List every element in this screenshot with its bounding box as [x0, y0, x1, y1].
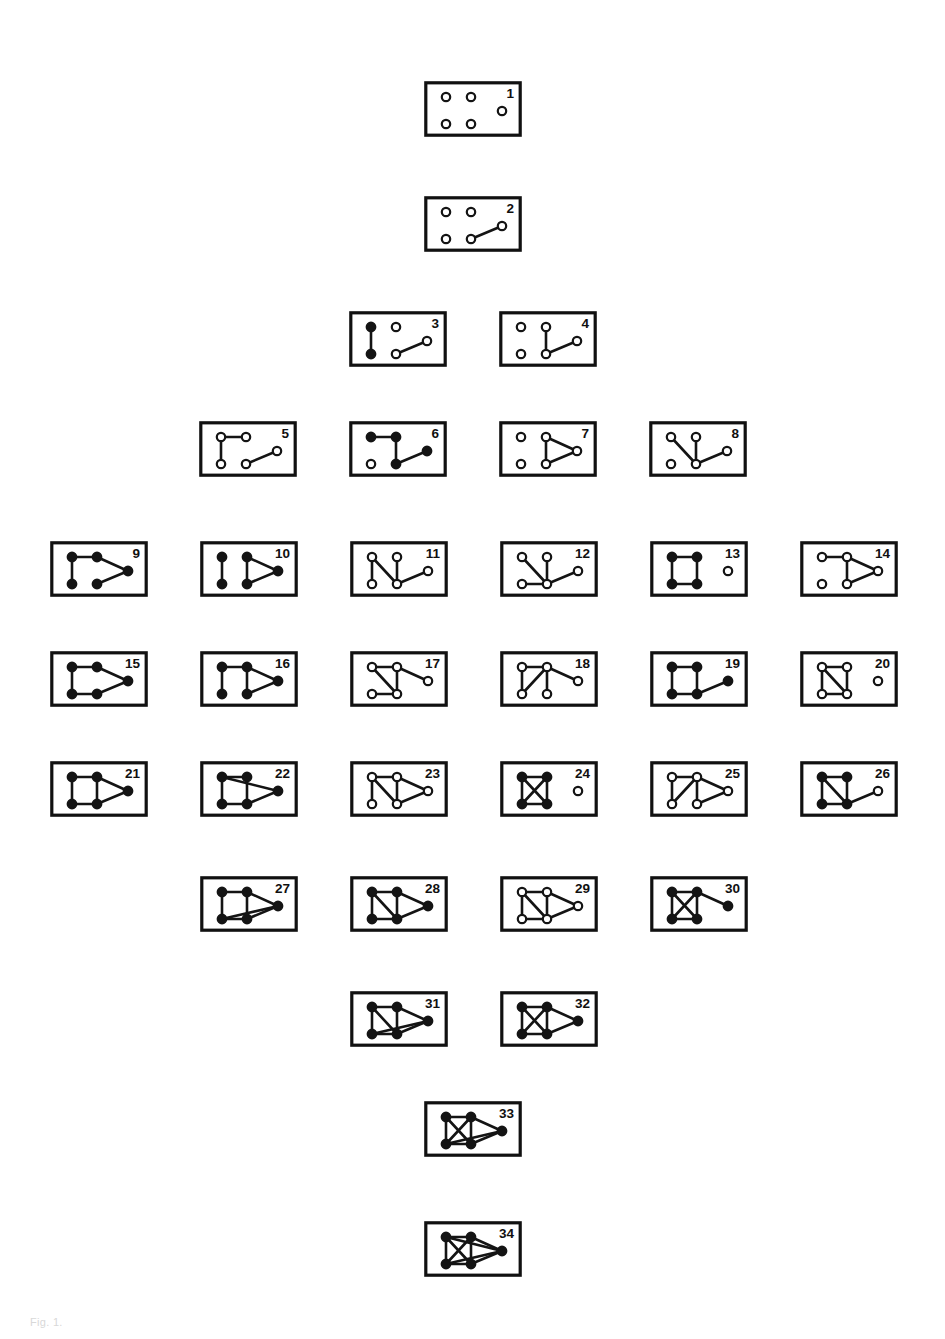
panel-number-label: 17	[425, 656, 440, 671]
graph-panel-11: 11	[350, 541, 448, 597]
graph-node-tm	[92, 662, 101, 671]
graph-node-bm	[242, 579, 251, 588]
graph-panel-20: 20	[800, 651, 898, 707]
graph-node-r	[422, 446, 431, 455]
graph-node-tl	[518, 553, 526, 561]
graph-node-tm	[392, 887, 401, 896]
graph-node-r	[423, 337, 431, 345]
panel-number-label: 21	[125, 766, 141, 781]
panel-number-label: 25	[725, 766, 741, 781]
graph-node-tl	[67, 662, 76, 671]
graph-node-tl	[367, 1002, 376, 1011]
graph-node-bl	[518, 915, 526, 923]
graph-node-r	[497, 1246, 506, 1255]
graph-node-bl	[67, 799, 76, 808]
graph-node-bm	[392, 1029, 401, 1038]
panel-number-label: 27	[275, 881, 290, 896]
graph-node-tl	[667, 552, 676, 561]
graph-node-tl	[668, 773, 676, 781]
graph-row: 27282930	[0, 876, 945, 956]
graph-node-bm	[393, 580, 401, 588]
graph-node-tm	[242, 887, 251, 896]
graph-node-bm	[92, 799, 101, 808]
graph-panel-14: 14	[800, 541, 898, 597]
graph-node-bm	[543, 690, 551, 698]
graph-node-bm	[392, 350, 400, 358]
graph-panel-5: 5	[199, 421, 297, 477]
graph-panel-8: 8	[649, 421, 747, 477]
graph-panel-2: 2	[424, 196, 522, 252]
graph-node-bl	[217, 914, 226, 923]
graph-node-tm	[467, 93, 475, 101]
graph-node-tl	[517, 1002, 526, 1011]
graph-node-bl	[368, 690, 376, 698]
graph-node-tl	[367, 887, 376, 896]
graph-panel-9: 9	[50, 541, 148, 597]
panel-number-label: 11	[426, 546, 441, 561]
panel-number-label: 10	[275, 546, 290, 561]
graph-node-tl	[366, 322, 375, 331]
graph-node-tm	[466, 1232, 475, 1241]
graph-node-tm	[692, 662, 701, 671]
graph-node-bl	[818, 690, 826, 698]
graph-node-r	[273, 447, 281, 455]
graph-node-tm	[543, 553, 551, 561]
graph-node-tm	[242, 552, 251, 561]
graph-node-r	[273, 676, 282, 685]
graph-node-r	[123, 676, 132, 685]
panel-number-label: 34	[499, 1226, 515, 1241]
graph-node-tl	[217, 887, 226, 896]
graph-node-bm	[242, 460, 250, 468]
graph-node-tl	[517, 433, 525, 441]
graph-node-bm	[692, 914, 701, 923]
graph-node-bm	[92, 689, 101, 698]
panel-number-label: 22	[275, 766, 290, 781]
panel-number-label: 8	[731, 426, 739, 441]
graph-node-r	[574, 902, 582, 910]
graph-node-r	[874, 567, 882, 575]
graph-panel-32: 32	[500, 991, 598, 1047]
graph-node-bl	[367, 1029, 376, 1038]
graph-row: 91011121314	[0, 541, 945, 621]
graph-node-bm	[542, 799, 551, 808]
graph-panel-7: 7	[499, 421, 597, 477]
graph-row: 3132	[0, 991, 945, 1071]
graph-panel-28: 28	[350, 876, 448, 932]
graph-node-bm	[843, 690, 851, 698]
panel-number-label: 31	[425, 996, 441, 1011]
panel-number-label: 30	[725, 881, 740, 896]
graph-node-bm	[842, 799, 851, 808]
graph-node-bl	[667, 579, 676, 588]
graph-panel-31: 31	[350, 991, 448, 1047]
graph-node-bl	[217, 460, 225, 468]
graph-catalog-figure: 1234567891011121314151617181920212223242…	[0, 0, 945, 1339]
graph-node-bl	[668, 800, 676, 808]
graph-node-bm	[393, 690, 401, 698]
graph-panel-4: 4	[499, 311, 597, 367]
graph-node-tm	[391, 432, 400, 441]
graph-panel-33: 33	[424, 1101, 522, 1157]
graph-node-bl	[517, 799, 526, 808]
graph-node-tl	[67, 552, 76, 561]
graph-node-tl	[217, 662, 226, 671]
panel-number-label: 23	[425, 766, 441, 781]
graph-node-bl	[817, 799, 826, 808]
graph-panel-21: 21	[50, 761, 148, 817]
graph-node-bm	[543, 580, 551, 588]
graph-node-bl	[518, 580, 526, 588]
graph-node-bl	[667, 689, 676, 698]
panel-number-label: 19	[725, 656, 740, 671]
graph-panel-24: 24	[500, 761, 598, 817]
graph-node-r	[424, 787, 432, 795]
graph-panel-6: 6	[349, 421, 447, 477]
graph-panel-30: 30	[650, 876, 748, 932]
graph-node-tl	[442, 93, 450, 101]
graph-node-tm	[542, 1002, 551, 1011]
graph-panel-13: 13	[650, 541, 748, 597]
graph-node-tl	[217, 552, 226, 561]
panel-number-label: 24	[575, 766, 591, 781]
graph-node-bm	[392, 914, 401, 923]
graph-node-bl	[368, 580, 376, 588]
graph-node-r	[573, 337, 581, 345]
graph-node-tl	[817, 772, 826, 781]
